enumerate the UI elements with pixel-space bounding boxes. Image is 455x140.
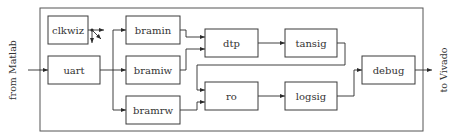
block-tansig-label: tansig [295,38,327,49]
wire-bramrw-ro [180,102,205,110]
block-bramiw: bramiw [126,56,180,84]
block-clkwiz-label: clkwiz [52,25,84,36]
block-bramin: bramin [126,16,180,44]
block-clkwiz: clkwiz [48,16,88,44]
wire-logsig-debug [337,70,362,96]
block-bramiw-label: bramiw [134,65,173,76]
wire-clk-diag [92,30,101,39]
block-bramrw: bramrw [126,96,180,124]
block-dtp: dtp [205,29,258,57]
block-ro-label: ro [226,91,237,102]
block-tansig: tansig [285,29,337,57]
block-bramrw-label: bramrw [133,105,173,116]
wire-uart-bramin [113,30,126,70]
block-uart-label: uart [63,65,84,76]
block-logsig-label: logsig [296,91,327,102]
block-bramin-label: bramin [135,25,172,36]
wire-bramin-dtp [180,30,205,37]
block-uart: uart [48,56,100,84]
block-diagram: from Matlab to Vivado clkwiz uart bramin… [0,0,455,140]
block-debug-label: debug [373,65,405,76]
wire-uart-bramrw [113,70,126,110]
block-logsig: logsig [285,82,337,110]
block-debug: debug [362,56,415,84]
input-label: from Matlab [7,40,18,100]
output-label: to Vivado [438,47,449,92]
wire-bramiw-dtp [180,49,205,70]
block-dtp-label: dtp [223,38,240,49]
block-ro: ro [205,82,258,110]
